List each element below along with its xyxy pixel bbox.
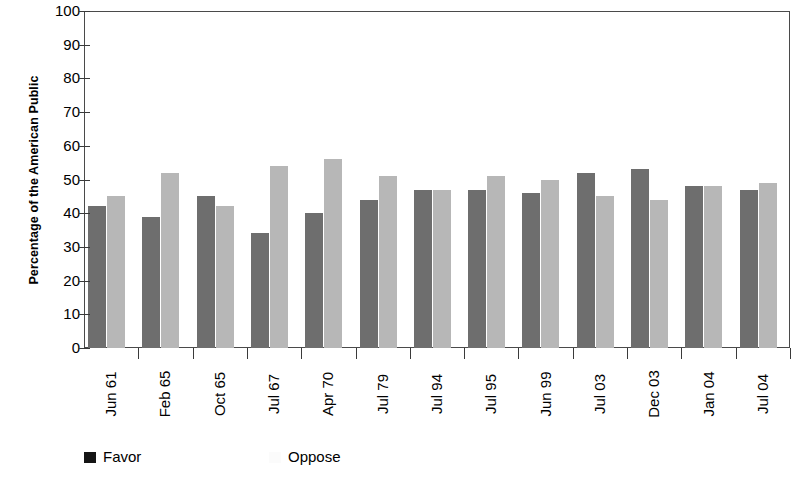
y-axis-tick-label: 40 bbox=[34, 205, 80, 220]
legend-label: Favor bbox=[103, 449, 141, 465]
bar-oppose bbox=[541, 180, 559, 349]
bar-oppose bbox=[216, 206, 234, 348]
x-axis-tick-label: Jul 03 bbox=[592, 349, 608, 439]
x-axis-tick-label: Apr 70 bbox=[320, 349, 336, 439]
bar-group bbox=[138, 11, 192, 348]
bar-favor bbox=[522, 193, 540, 348]
bar-favor bbox=[360, 200, 378, 348]
bar-oppose bbox=[270, 166, 288, 348]
y-axis-tick-label: 100 bbox=[34, 3, 80, 18]
x-axis-tick-mark bbox=[410, 348, 411, 359]
bar-group bbox=[247, 11, 301, 348]
y-axis-tick-mark bbox=[78, 78, 90, 79]
x-axis-tick-label: Jun 99 bbox=[538, 349, 554, 439]
x-axis-tick-mark bbox=[247, 348, 248, 359]
y-axis-tick-mark bbox=[78, 247, 90, 248]
y-axis-tick-label: 10 bbox=[34, 306, 80, 321]
bar-favor bbox=[631, 169, 649, 348]
y-axis-tick-mark bbox=[78, 348, 90, 349]
x-axis-tick-mark bbox=[573, 348, 574, 359]
x-axis-tick-label: Jun 61 bbox=[103, 349, 119, 439]
x-axis-tick-label: Dec 03 bbox=[646, 349, 662, 439]
x-axis-tick-mark bbox=[301, 348, 302, 359]
y-axis-tick-mark bbox=[78, 45, 90, 46]
bar-group bbox=[301, 11, 355, 348]
x-axis-tick-mark bbox=[138, 348, 139, 359]
x-axis-tick-mark bbox=[356, 348, 357, 359]
x-axis-tick-labels: Jun 61Feb 65Oct 65Jul 67Apr 70Jul 79Jul … bbox=[0, 352, 798, 442]
x-axis-tick-label: Jul 04 bbox=[755, 349, 771, 439]
bar-group bbox=[193, 11, 247, 348]
y-axis-tick-label: 30 bbox=[34, 239, 80, 254]
y-axis-tick-label: 60 bbox=[34, 138, 80, 153]
y-axis-tick-label: 90 bbox=[34, 37, 80, 52]
bar-oppose bbox=[704, 186, 722, 348]
legend-label: Oppose bbox=[288, 449, 341, 465]
bar-favor bbox=[251, 233, 269, 348]
y-axis-tick-mark bbox=[78, 11, 90, 12]
bar-favor bbox=[414, 190, 432, 348]
bar-oppose bbox=[161, 173, 179, 348]
bar-oppose bbox=[596, 196, 614, 348]
bar-group bbox=[410, 11, 464, 348]
bar-favor bbox=[685, 186, 703, 348]
bar-oppose bbox=[759, 183, 777, 348]
bar-oppose bbox=[324, 159, 342, 348]
bar-group bbox=[84, 11, 138, 348]
x-axis-tick-mark bbox=[790, 348, 791, 359]
y-axis-tick-mark bbox=[78, 314, 90, 315]
bar-group bbox=[356, 11, 410, 348]
y-axis-tick-label: 80 bbox=[34, 70, 80, 85]
bar-oppose bbox=[379, 176, 397, 348]
x-axis-tick-mark bbox=[736, 348, 737, 359]
x-axis-tick-mark bbox=[627, 348, 628, 359]
x-axis-tick-mark bbox=[193, 348, 194, 359]
bar-favor bbox=[88, 206, 106, 348]
y-axis-tick-mark bbox=[78, 146, 90, 147]
bar-group bbox=[464, 11, 518, 348]
x-axis-tick-label: Jul 79 bbox=[375, 349, 391, 439]
x-axis-tick-label: Jul 67 bbox=[266, 349, 282, 439]
bar-oppose bbox=[107, 196, 125, 348]
y-axis-tick-mark bbox=[78, 213, 90, 214]
bar-oppose bbox=[433, 190, 451, 348]
bar-group bbox=[573, 11, 627, 348]
bar-group bbox=[518, 11, 572, 348]
x-axis-tick-label: Jul 95 bbox=[483, 349, 499, 439]
bar-favor bbox=[740, 190, 758, 348]
y-axis-tick-label: 70 bbox=[34, 104, 80, 119]
bar-favor bbox=[197, 196, 215, 348]
bar-oppose bbox=[487, 176, 505, 348]
bar-group bbox=[627, 11, 681, 348]
bar-oppose bbox=[650, 200, 668, 348]
bar-group bbox=[681, 11, 735, 348]
bar-chart: Percentage of the American Public 010203… bbox=[0, 0, 798, 478]
y-axis-tick-label: 50 bbox=[34, 172, 80, 187]
x-axis-tick-label: Feb 65 bbox=[157, 349, 173, 439]
bar-series-container bbox=[84, 11, 790, 348]
y-axis-tick-mark bbox=[78, 112, 90, 113]
y-axis-tick-mark bbox=[78, 180, 90, 181]
x-axis-tick-mark bbox=[681, 348, 682, 359]
bar-group bbox=[736, 11, 790, 348]
bar-favor bbox=[468, 190, 486, 348]
x-axis-tick-label: Jul 94 bbox=[429, 349, 445, 439]
x-axis-tick-label: Oct 65 bbox=[212, 349, 228, 439]
y-axis-tick-labels: 0102030405060708090100 bbox=[34, 0, 80, 360]
x-axis-tick-label: Jan 04 bbox=[701, 349, 717, 439]
bar-favor bbox=[577, 173, 595, 348]
x-axis-tick-mark bbox=[464, 348, 465, 359]
legend-item: Oppose bbox=[269, 449, 341, 465]
x-axis-tick-mark bbox=[518, 348, 519, 359]
legend-item: Favor bbox=[84, 449, 141, 465]
bar-favor bbox=[142, 217, 160, 348]
bar-favor bbox=[305, 213, 323, 348]
y-axis-tick-mark bbox=[78, 281, 90, 282]
legend-swatch-favor-icon bbox=[84, 452, 96, 463]
y-axis-tick-label: 20 bbox=[34, 273, 80, 288]
legend-swatch-oppose-icon bbox=[269, 452, 281, 463]
